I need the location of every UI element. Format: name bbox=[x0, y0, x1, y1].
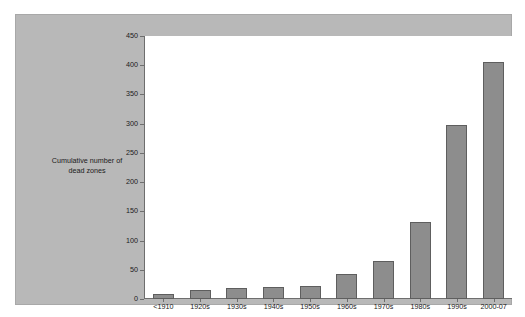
y-axis-tick-label: 200 bbox=[126, 177, 138, 186]
y-axis-tick-label: 50 bbox=[130, 265, 138, 274]
bar bbox=[300, 286, 321, 299]
x-axis-tick-label: 1990s bbox=[439, 302, 476, 311]
y-axis-tick-label: 400 bbox=[126, 60, 138, 69]
x-axis-tick-label: 1960s bbox=[329, 302, 366, 311]
y-axis-tick-label: 350 bbox=[126, 89, 138, 98]
bar-series bbox=[145, 36, 512, 299]
x-axis: <19101920s1930s1940s1950s1960s1970s1980s… bbox=[145, 302, 512, 316]
x-axis-tick-label: 1950s bbox=[292, 302, 329, 311]
bar-chart-figure: Cumulative number of dead zones 05010015… bbox=[0, 0, 525, 317]
x-axis-tick-label: 1980s bbox=[402, 302, 439, 311]
y-axis-tick-label: 100 bbox=[126, 236, 138, 245]
x-axis-tick-label: 1940s bbox=[255, 302, 292, 311]
x-axis-tick-label: 2000-07 bbox=[475, 302, 512, 311]
bar bbox=[263, 287, 284, 299]
bar bbox=[336, 274, 357, 299]
x-axis-tick-label: 1930s bbox=[218, 302, 255, 311]
y-axis-tick-mark bbox=[140, 299, 144, 300]
y-axis-tick-label: 250 bbox=[126, 148, 138, 157]
x-axis-tick-label: <1910 bbox=[145, 302, 182, 311]
bar bbox=[483, 62, 504, 299]
bar bbox=[190, 290, 211, 299]
y-axis-tick-label: 0 bbox=[134, 294, 138, 303]
bar bbox=[410, 222, 431, 299]
y-axis-tick-label: 150 bbox=[126, 206, 138, 215]
bar bbox=[226, 288, 247, 299]
bar bbox=[373, 261, 394, 299]
x-axis-tick-label: 1920s bbox=[182, 302, 219, 311]
bar bbox=[446, 125, 467, 299]
y-axis-tick-label: 450 bbox=[126, 31, 138, 40]
x-axis-tick-label: 1970s bbox=[365, 302, 402, 311]
y-axis-tick-label: 300 bbox=[126, 119, 138, 128]
y-axis: 050100150200250300350400450 bbox=[104, 36, 144, 299]
chart-panel: Cumulative number of dead zones 05010015… bbox=[15, 14, 512, 305]
